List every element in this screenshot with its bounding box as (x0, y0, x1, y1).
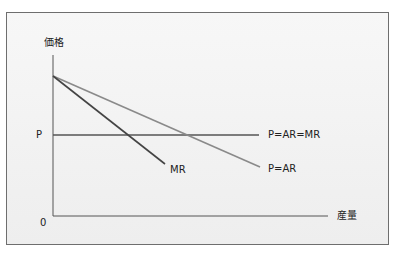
x-axis-label: 産量 (337, 211, 357, 221)
mr-label: MR (170, 165, 186, 175)
origin-label: 0 (40, 218, 46, 228)
demand-line-p-ar (53, 76, 260, 167)
y-axis-label: 価格 (44, 38, 64, 48)
price-tick-label: P (36, 130, 42, 140)
p-ar-label: P=AR (268, 164, 296, 174)
mr-line (53, 76, 165, 164)
p-ar-mr-label: P=AR=MR (268, 130, 320, 140)
